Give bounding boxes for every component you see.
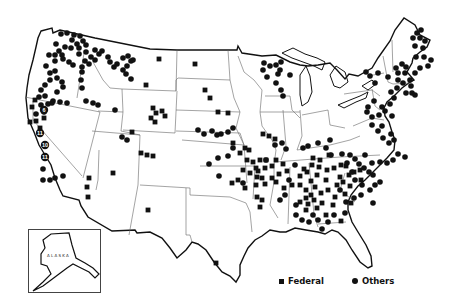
federal-site-marker xyxy=(34,119,39,124)
other-site-marker xyxy=(267,63,273,69)
federal-site-marker xyxy=(335,183,340,188)
other-site-marker xyxy=(394,85,400,91)
federal-site-marker xyxy=(247,148,252,153)
federal-site-marker xyxy=(326,188,331,193)
other-site-marker xyxy=(46,52,52,58)
us-map: 6111011 ALASKA Federal Others xyxy=(0,0,455,305)
other-site-marker xyxy=(79,85,85,91)
federal-site-marker xyxy=(30,105,35,110)
other-site-marker xyxy=(347,152,353,158)
other-site-marker xyxy=(395,77,401,83)
federal-site-marker xyxy=(339,219,344,224)
other-site-marker xyxy=(293,212,299,218)
other-site-marker xyxy=(47,77,53,83)
federal-site-marker xyxy=(42,116,47,121)
other-site-marker xyxy=(60,56,66,62)
federal-site-marker xyxy=(248,171,253,176)
other-site-marker xyxy=(260,67,266,73)
numbered-site-marker: 6 xyxy=(40,106,48,114)
other-site-marker xyxy=(42,93,48,99)
other-site-marker xyxy=(408,83,414,89)
other-site-marker xyxy=(328,152,334,158)
other-site-marker xyxy=(319,226,325,232)
federal-site-marker xyxy=(315,173,320,178)
federal-site-marker xyxy=(273,137,278,142)
other-site-marker xyxy=(124,63,130,69)
other-site-marker xyxy=(57,99,63,105)
other-site-marker xyxy=(112,107,118,113)
federal-site-marker xyxy=(145,153,150,158)
other-site-marker xyxy=(206,161,212,167)
federal-site-marker xyxy=(304,188,309,193)
other-site-marker xyxy=(78,77,84,83)
other-site-marker xyxy=(99,48,105,54)
federal-site-marker xyxy=(263,166,268,171)
other-site-marker xyxy=(413,54,419,60)
other-site-marker xyxy=(359,182,365,188)
federal-site-marker xyxy=(310,163,315,168)
other-site-marker xyxy=(352,156,358,162)
other-site-marker xyxy=(421,54,427,60)
other-site-marker xyxy=(300,145,306,151)
other-site-marker xyxy=(391,137,397,143)
other-site-marker xyxy=(365,104,371,110)
alaska-label: ALASKA xyxy=(47,253,70,258)
other-site-marker xyxy=(54,75,60,81)
other-site-marker xyxy=(375,70,381,76)
federal-site-marker xyxy=(151,106,156,111)
other-site-marker xyxy=(402,154,408,160)
other-site-marker xyxy=(385,74,391,80)
federal-site-marker xyxy=(359,178,364,183)
other-site-marker xyxy=(331,212,337,218)
other-site-marker xyxy=(105,54,111,60)
federal-site-marker xyxy=(87,176,92,181)
other-site-marker xyxy=(54,89,60,95)
other-site-marker xyxy=(263,157,269,163)
federal-site-marker xyxy=(263,182,268,187)
other-site-marker xyxy=(376,112,382,118)
federal-site-marker xyxy=(311,156,316,161)
federal-site-marker xyxy=(230,181,235,186)
other-site-marker xyxy=(379,123,385,129)
federal-site-marker xyxy=(255,175,260,180)
federal-site-marker xyxy=(163,114,168,119)
federal-site-marker xyxy=(258,158,263,163)
other-site-marker xyxy=(83,49,89,55)
federal-site-marker xyxy=(241,168,246,173)
other-site-marker xyxy=(215,155,221,161)
federal-site-marker xyxy=(203,88,208,93)
svg-text:6: 6 xyxy=(42,107,45,113)
other-site-marker xyxy=(375,128,381,134)
federal-site-marker xyxy=(85,185,90,190)
great-lakes xyxy=(282,48,376,108)
other-site-marker xyxy=(52,52,58,58)
other-site-marker xyxy=(400,80,406,86)
other-site-marker xyxy=(52,175,58,181)
other-site-marker xyxy=(380,135,386,141)
other-site-marker xyxy=(272,142,278,148)
federal-site-marker xyxy=(324,178,329,183)
federal-site-marker xyxy=(282,186,287,191)
other-site-marker xyxy=(225,129,231,135)
other-site-marker xyxy=(344,160,350,166)
other-site-marker xyxy=(417,65,423,71)
other-site-marker xyxy=(428,57,434,63)
other-site-marker xyxy=(60,84,66,90)
other-site-marker xyxy=(337,187,343,193)
other-site-marker xyxy=(275,71,281,77)
federal-site-marker xyxy=(86,195,91,200)
other-site-marker xyxy=(201,131,207,137)
federal-site-marker xyxy=(254,183,259,188)
federal-site-marker xyxy=(160,109,165,114)
federal-site-marker xyxy=(348,184,353,189)
other-site-marker xyxy=(361,165,367,171)
other-site-marker xyxy=(114,61,120,67)
other-site-marker xyxy=(351,195,357,201)
other-site-marker xyxy=(422,38,428,44)
other-site-marker xyxy=(377,159,383,165)
legend-item-federal: Federal xyxy=(279,276,324,286)
federal-site-marker xyxy=(231,141,236,146)
other-site-marker xyxy=(349,169,355,175)
federal-site-marker xyxy=(154,111,159,116)
federal-site-marker xyxy=(285,169,290,174)
